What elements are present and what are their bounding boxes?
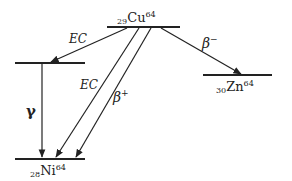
ec-excited-label: EC — [68, 32, 87, 46]
beta-minus-label: β− — [201, 34, 218, 51]
ni64-label: 28Ni64 — [30, 163, 66, 179]
zn64-label: 30Zn64 — [216, 79, 254, 95]
gamma-label: γ — [26, 102, 36, 120]
beta-plus-label: β+ — [112, 88, 129, 105]
beta-minus-arrow — [161, 28, 241, 74]
ec-ground-label: EC — [79, 78, 98, 92]
decay-scheme-diagram: 29Cu64 30Zn64 28Ni64 EC EC β+ β− γ — [0, 0, 292, 181]
ec-excited-arrow — [51, 28, 127, 62]
cu64-label: 29Cu64 — [117, 10, 156, 26]
